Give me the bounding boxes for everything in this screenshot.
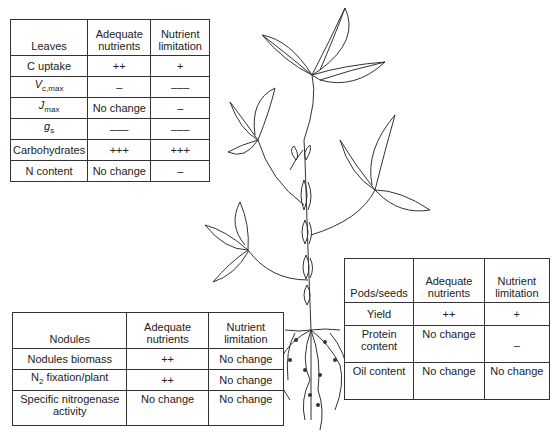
- cell-limitation: No change: [208, 391, 283, 426]
- cell-adequate: No change: [414, 363, 484, 400]
- cell-adequate: No change: [88, 161, 151, 182]
- row-label: Specific nitrogenase activity: [13, 391, 127, 426]
- row-label: Carbohydrates: [11, 140, 88, 161]
- table-row: gs ––– –––: [11, 119, 210, 140]
- header-cell: Adequate nutrients: [88, 20, 151, 56]
- cell-limitation: –: [151, 98, 210, 119]
- cell-adequate: ++: [127, 370, 208, 391]
- table-row: Carbohydrates +++ +++: [11, 140, 210, 161]
- table-row: Jmax No change –: [11, 98, 210, 119]
- row-label: N2 fixation/plant: [13, 370, 127, 391]
- cell-limitation: –: [151, 161, 210, 182]
- row-label: Vc,max: [11, 77, 88, 98]
- cell-adequate: +++: [88, 140, 151, 161]
- cell-adequate: No change: [127, 391, 208, 426]
- header-cell: Nutrient limitation: [208, 313, 283, 349]
- cell-adequate: ++: [88, 56, 151, 77]
- table-row: Oil content No change No change: [345, 363, 550, 400]
- table-row: Specific nitrogenase activity No change …: [13, 391, 284, 426]
- table-row: Vc,max – –––: [11, 77, 210, 98]
- table-row: C uptake ++ +: [11, 56, 210, 77]
- row-label: C uptake: [11, 56, 88, 77]
- header-cell: Nodules: [13, 313, 127, 349]
- table-header-row: Leaves Adequate nutrients Nutrient limit…: [11, 20, 210, 56]
- cell-limitation: +: [151, 56, 210, 77]
- row-label: N content: [11, 161, 88, 182]
- header-cell: Nutrient limitation: [151, 20, 210, 56]
- row-label: Protein content: [345, 326, 414, 363]
- table-row: Nodules biomass ++ No change: [13, 349, 284, 370]
- cell-limitation: –––: [151, 77, 210, 98]
- row-label: gs: [11, 119, 88, 140]
- row-label: Nodules biomass: [13, 349, 127, 370]
- cell-adequate: No change: [88, 98, 151, 119]
- table-row: Yield ++ +: [345, 303, 550, 326]
- table-header-row: Nodules Adequate nutrients Nutrient limi…: [13, 313, 284, 349]
- header-cell: Nutrient limitation: [484, 259, 549, 303]
- header-cell: Adequate nutrients: [127, 313, 208, 349]
- pods-seeds-table: Pods/seeds Adequate nutrients Nutrient l…: [344, 258, 550, 400]
- cell-adequate: ++: [127, 349, 208, 370]
- row-label: Oil content: [345, 363, 414, 400]
- cell-limitation: –––: [151, 119, 210, 140]
- cell-limitation: +: [484, 303, 549, 326]
- header-cell: Adequate nutrients: [414, 259, 484, 303]
- row-label: Yield: [345, 303, 414, 326]
- nodules-table: Nodules Adequate nutrients Nutrient limi…: [12, 312, 284, 426]
- table-row: N content No change –: [11, 161, 210, 182]
- header-cell: Pods/seeds: [345, 259, 414, 303]
- header-cell: Leaves: [11, 20, 88, 56]
- cell-adequate: –––: [88, 119, 151, 140]
- cell-limitation: –: [484, 326, 549, 363]
- cell-limitation: +++: [151, 140, 210, 161]
- table-row: N2 fixation/plant ++ No change: [13, 370, 284, 391]
- cell-adequate: No change: [414, 326, 484, 363]
- table-row: Protein content No change –: [345, 326, 550, 363]
- leaves-table: Leaves Adequate nutrients Nutrient limit…: [10, 19, 210, 182]
- cell-limitation: No change: [484, 363, 549, 400]
- cell-adequate: ++: [414, 303, 484, 326]
- cell-adequate: –: [88, 77, 151, 98]
- table-header-row: Pods/seeds Adequate nutrients Nutrient l…: [345, 259, 550, 303]
- row-label: Jmax: [11, 98, 88, 119]
- cell-limitation: No change: [208, 370, 283, 391]
- cell-limitation: No change: [208, 349, 283, 370]
